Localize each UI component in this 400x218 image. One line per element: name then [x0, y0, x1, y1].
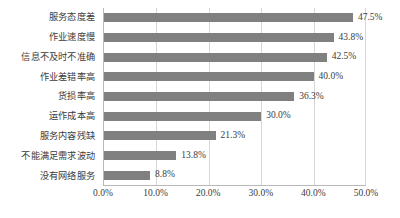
- bar-value-label: 36.3%: [299, 92, 324, 102]
- x-axis-tick-label: 30.0%: [249, 189, 274, 199]
- bar: 47.5%: [104, 13, 353, 22]
- bar: 43.8%: [104, 33, 334, 42]
- x-axis-tick-label: 0.0%: [93, 189, 113, 199]
- bar: 42.5%: [104, 53, 327, 62]
- y-axis-tick-label: 作业差错率高: [0, 67, 99, 87]
- bar-value-label: 13.8%: [181, 151, 206, 161]
- bar: 8.8%: [104, 171, 150, 180]
- y-axis-tick-label: 不能满足需求波动: [0, 146, 99, 166]
- y-axis-tick-label: 服务态度差: [0, 8, 99, 28]
- bar-row: 47.5%: [104, 8, 366, 28]
- x-axis-tick-label: 50.0%: [354, 189, 379, 199]
- bar-row: 42.5%: [104, 47, 366, 67]
- plot-area: 47.5% 43.8% 42.5% 40.0% 36.3%: [103, 8, 366, 186]
- bar-value-label: 30.0%: [266, 111, 291, 121]
- y-axis-tick-label: 没有网络服务: [0, 166, 99, 186]
- bar-value-label: 47.5%: [358, 13, 383, 23]
- bar-value-label: 21.3%: [221, 131, 246, 141]
- bar: 40.0%: [104, 72, 314, 81]
- y-axis-category-labels: 服务态度差 作业速度慢 信息不及时不准确 作业差错率高 货损率高 运作成本高 服…: [0, 8, 99, 186]
- bar-row: 40.0%: [104, 67, 366, 87]
- bar-value-label: 40.0%: [319, 72, 344, 82]
- bar-row: 43.8%: [104, 28, 366, 48]
- x-axis-tick-labels: 0.0% 10.0% 20.0% 30.0% 40.0% 50.0%: [103, 189, 366, 203]
- bar-value-label: 43.8%: [339, 33, 364, 43]
- y-axis-tick-label: 运作成本高: [0, 107, 99, 127]
- x-axis-tick-label: 10.0%: [143, 189, 168, 199]
- x-axis-tick-label: 40.0%: [301, 189, 326, 199]
- bar: 13.8%: [104, 151, 176, 160]
- y-axis-tick-label: 信息不及时不准确: [0, 48, 99, 68]
- bar-row: 21.3%: [104, 126, 366, 146]
- bar-chart: 服务态度差 作业速度慢 信息不及时不准确 作业差错率高 货损率高 运作成本高 服…: [0, 0, 400, 218]
- bar: 36.3%: [104, 92, 294, 101]
- y-axis-tick-label: 作业速度慢: [0, 28, 99, 48]
- bar-value-label: 8.8%: [155, 170, 175, 180]
- bar-value-label: 42.5%: [332, 52, 357, 62]
- bar: 21.3%: [104, 131, 216, 140]
- x-axis-tick-label: 20.0%: [196, 189, 221, 199]
- bar-row: 13.8%: [104, 146, 366, 166]
- bar-row: 30.0%: [104, 106, 366, 126]
- bar-row: 8.8%: [104, 165, 366, 185]
- y-axis-tick-label: 货损率高: [0, 87, 99, 107]
- y-axis-tick-label: 服务内容残缺: [0, 127, 99, 147]
- bar: 30.0%: [104, 112, 261, 121]
- bar-row: 36.3%: [104, 87, 366, 107]
- bar-series: 47.5% 43.8% 42.5% 40.0% 36.3%: [104, 8, 366, 185]
